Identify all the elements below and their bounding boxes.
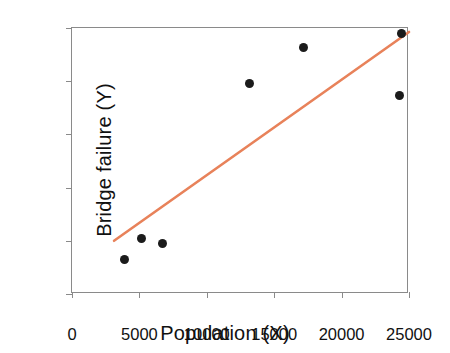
plot-area: 0 20 40 60 80 100 0 5000 10000 15000 200…: [71, 27, 408, 293]
data-point: [120, 255, 129, 264]
regression-line: [72, 28, 409, 294]
y-tick-60: [66, 134, 72, 135]
y-axis-title: Bridge failure (Y): [93, 27, 116, 293]
y-tick-40: [66, 188, 72, 189]
data-point: [245, 79, 254, 88]
x-tick-5000: [139, 292, 140, 298]
data-point: [395, 91, 404, 100]
y-tick-80: [66, 81, 72, 82]
x-tick-20000: [342, 292, 343, 298]
data-point: [137, 234, 146, 243]
x-tick-25000: [409, 292, 410, 298]
x-tick-15000: [274, 292, 275, 298]
x-tick-0: [72, 292, 73, 298]
x-axis-title: Population (X): [0, 322, 450, 345]
data-point: [397, 29, 406, 38]
data-point: [158, 239, 167, 248]
x-tick-10000: [207, 292, 208, 298]
y-tick-20: [66, 241, 72, 242]
y-tick-100: [66, 28, 72, 29]
trend-line-segment: [114, 32, 409, 241]
scatter-plot-figure: 0 20 40 60 80 100 0 5000 10000 15000 200…: [0, 0, 450, 353]
data-point: [299, 43, 308, 52]
